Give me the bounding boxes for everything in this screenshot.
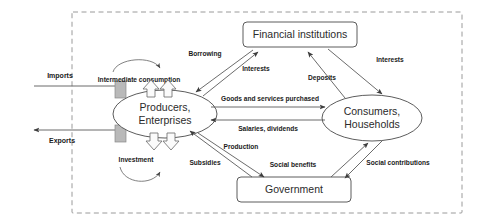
salaries-dividends-label: Salaries, dividends <box>238 125 298 133</box>
imports-label: Imports <box>47 72 73 80</box>
social-contributions-label: Social contributions <box>366 159 430 166</box>
borrowing-label: Borrowing <box>189 50 222 58</box>
interests-producers-label: Interests <box>242 65 270 72</box>
investment-label: Investment <box>119 156 155 163</box>
interests-consumers-label: Interests <box>376 56 404 63</box>
deposits-label: Deposits <box>308 74 336 82</box>
investment-arc <box>120 167 160 181</box>
interests-producers-arrow <box>203 52 258 96</box>
subsidies-label: Subsidies <box>189 159 220 166</box>
node-producers-label-line1: Producers, <box>140 101 191 113</box>
social-benefits-label: Social benefits <box>270 161 317 168</box>
circular-flow-diagram: Imports Exports Producers, Enterprises C… <box>0 0 479 223</box>
imports-terminal-bar <box>115 81 126 98</box>
node-producers-label-line2: Enterprises <box>138 114 191 126</box>
diagram-canvas: Imports Exports Producers, Enterprises C… <box>0 0 479 223</box>
exports-label: Exports <box>49 137 75 145</box>
intermediate-consumption-arc <box>113 60 160 72</box>
goods-and-services-purchased-label: Goods and services purchased <box>221 95 319 103</box>
node-consumers-label-line1: Consumers, <box>344 105 401 117</box>
production-arrow <box>198 133 264 177</box>
subsidies-arrow <box>190 131 252 177</box>
node-financial-institutions-label: Financial institutions <box>253 28 348 40</box>
node-government-label: Government <box>265 183 323 195</box>
production-label: Production <box>224 143 259 150</box>
node-consumers-label-line2: Households <box>344 118 399 130</box>
